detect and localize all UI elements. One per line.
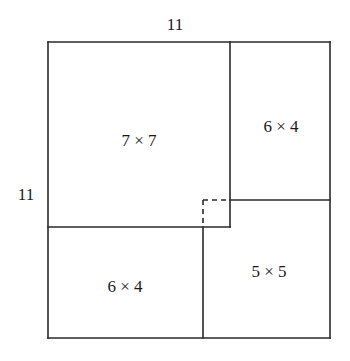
top-left-region-label: 7 × 7 (121, 132, 156, 149)
left-side-dimension-label: 11 (4, 186, 48, 203)
region-labels-layer: 7 × 76 × 46 × 45 × 5 (0, 0, 350, 361)
diagram-page: 7 × 76 × 46 × 45 × 5 11 11 (0, 0, 350, 361)
top-side-dimension-label: 11 (0, 16, 350, 33)
bottom-left-region-label: 6 × 4 (107, 278, 142, 295)
bottom-right-region-label: 5 × 5 (251, 263, 286, 280)
right-region-label: 6 × 4 (263, 118, 298, 135)
